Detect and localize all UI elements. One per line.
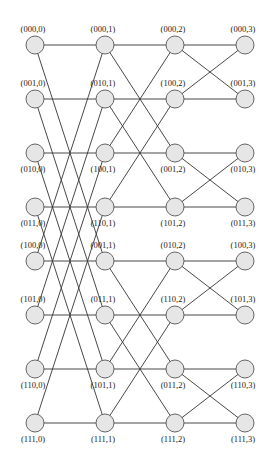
node	[26, 198, 44, 216]
node	[96, 198, 114, 216]
node-label: (101,0)	[21, 294, 46, 304]
node	[166, 36, 184, 54]
node-label: (011,1)	[91, 294, 116, 304]
node-label: (000,0)	[21, 24, 46, 34]
node	[236, 90, 254, 108]
node	[166, 252, 184, 270]
node	[166, 360, 184, 378]
node-label: (000,2)	[161, 24, 186, 34]
node-label: (101,1)	[91, 380, 116, 390]
node	[26, 414, 44, 432]
node-label: (000,1)	[91, 24, 116, 34]
node	[96, 414, 114, 432]
node	[96, 36, 114, 54]
node-label: (001,2)	[161, 164, 186, 174]
node-label: (010,2)	[161, 240, 186, 250]
node	[96, 252, 114, 270]
node	[166, 144, 184, 162]
node	[236, 360, 254, 378]
node-label: (011,0)	[21, 218, 46, 228]
node	[236, 306, 254, 324]
node	[236, 252, 254, 270]
node	[166, 414, 184, 432]
node-label: (100,1)	[91, 164, 116, 174]
node-label: (101,3)	[231, 294, 256, 304]
node	[26, 306, 44, 324]
node	[96, 144, 114, 162]
node	[96, 90, 114, 108]
node-label: (100,3)	[231, 240, 256, 250]
node-label: (100,0)	[21, 240, 46, 250]
butterfly-network-diagram: (000,0)(001,0)(010,0)(011,0)(100,0)(101,…	[0, 0, 271, 464]
node	[166, 306, 184, 324]
node	[236, 144, 254, 162]
node	[236, 36, 254, 54]
node-label: (101,2)	[161, 218, 186, 228]
node-label: (001,3)	[231, 78, 256, 88]
node	[166, 198, 184, 216]
node-label: (001,0)	[21, 78, 46, 88]
node	[96, 306, 114, 324]
node-label: (110,2)	[161, 294, 186, 304]
node-label: (010,0)	[21, 164, 46, 174]
node-label: (110,3)	[231, 380, 256, 390]
labels-layer: (000,0)(001,0)(010,0)(011,0)(100,0)(101,…	[21, 24, 256, 444]
node	[26, 144, 44, 162]
node-label: (110,1)	[91, 218, 116, 228]
node-label: (011,3)	[231, 218, 256, 228]
node-label: (111,0)	[21, 434, 45, 444]
node-label: (010,1)	[91, 78, 116, 88]
node	[26, 252, 44, 270]
node-label: (010,3)	[231, 164, 256, 174]
node-label: (001,1)	[91, 240, 116, 250]
node-label: (111,3)	[231, 434, 255, 444]
node	[236, 414, 254, 432]
node-label: (000,3)	[231, 24, 256, 34]
nodes-layer	[26, 36, 254, 432]
node	[26, 90, 44, 108]
node-label: (111,2)	[161, 434, 185, 444]
node-label: (110,0)	[21, 380, 46, 390]
node	[166, 90, 184, 108]
node-label: (100,2)	[161, 78, 186, 88]
node	[26, 360, 44, 378]
node-label: (011,2)	[161, 380, 186, 390]
node	[96, 360, 114, 378]
node-label: (111,1)	[91, 434, 115, 444]
node	[236, 198, 254, 216]
edges-layer	[35, 45, 245, 423]
node	[26, 36, 44, 54]
